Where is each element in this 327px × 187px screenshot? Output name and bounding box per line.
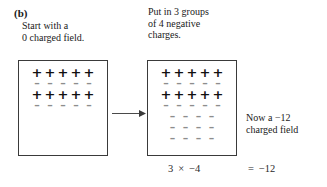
caption-result-field: Now a −12 charged field — [246, 112, 327, 135]
minus-charge-icon: – — [205, 133, 218, 144]
charge-row: ––––– — [148, 100, 236, 111]
right-arrow-icon — [112, 104, 146, 113]
charge-row: –––– — [148, 133, 236, 144]
minus-charge-icon: – — [166, 133, 179, 144]
caption-start-field: Start with a 0 charged field. — [22, 20, 132, 43]
minus-charge-icon: – — [83, 100, 96, 111]
equation-right-operand: −4 — [189, 163, 200, 174]
minus-charge-icon: – — [70, 100, 83, 111]
minus-charge-icon: – — [192, 133, 205, 144]
minus-charge-icon: – — [179, 133, 192, 144]
charge-rows-start: +++++–––––+++++––––– — [19, 67, 107, 111]
charge-row: –––– — [148, 122, 236, 133]
field-box-start: +++++–––––+++++––––– — [18, 60, 108, 156]
equation-product: −12 — [254, 163, 280, 175]
minus-charge-icon: – — [31, 100, 44, 111]
charge-row: ––––– — [19, 100, 107, 111]
charge-rows-result: +++++–––––+++++––––––––––––––––– — [148, 67, 236, 144]
minus-charge-icon: – — [57, 100, 70, 111]
field-box-result: +++++–––––+++++––––––––––––––––– — [147, 60, 237, 156]
multiplication-operator: × — [173, 163, 189, 175]
charge-row: –––– — [148, 111, 236, 122]
minus-charge-icon: – — [44, 100, 57, 111]
caption-operation: Put in 3 groups of 4 negative charges. — [148, 6, 253, 41]
panel-label: (b) — [14, 7, 27, 20]
equation-expression: 3×−4 — [168, 163, 200, 175]
equation-result: =−12 — [248, 163, 280, 175]
